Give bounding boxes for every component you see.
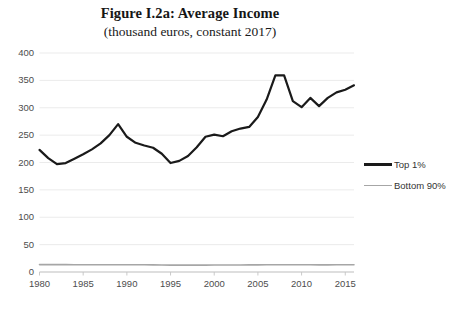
legend-item-top-1-percent[interactable]: Top 1%	[364, 156, 469, 173]
y-axis-tick-label: 150	[0, 184, 34, 195]
x-axis-tick-label: 1980	[20, 278, 60, 289]
series-lines	[40, 75, 355, 265]
x-axis-tick-label: 2015	[325, 278, 365, 289]
x-axis-tick-label: 2000	[194, 278, 234, 289]
figure-container: Figure I.2a: Average Income (thousand eu…	[0, 0, 469, 310]
legend-line-swatch	[364, 185, 392, 187]
line-chart-plot	[0, 0, 469, 310]
legend-line-swatch	[364, 163, 392, 165]
y-axis-tick-label: 300	[0, 102, 34, 113]
x-axis-tick-label: 1995	[151, 278, 191, 289]
x-axis-tick-label: 1985	[63, 278, 103, 289]
x-axis-tick-label: 2005	[238, 278, 278, 289]
series-line-bottom-90-percent	[40, 265, 355, 266]
y-axis-tick-label: 50	[0, 239, 34, 250]
y-axis-tick-label: 0	[0, 266, 34, 277]
y-axis-tick-label: 200	[0, 157, 34, 168]
legend-item-bottom-90-percent[interactable]: Bottom 90%	[364, 177, 469, 194]
legend-label: Bottom 90%	[392, 180, 446, 191]
chart-legend: Top 1%Bottom 90%	[364, 156, 469, 198]
y-axis-tick-label: 400	[0, 47, 34, 58]
legend-label: Top 1%	[392, 159, 426, 170]
y-axis-tick-label: 100	[0, 211, 34, 222]
y-axis-tick-label: 250	[0, 129, 34, 140]
x-axis-tick-label: 2010	[282, 278, 322, 289]
series-line-top-1-percent	[40, 75, 355, 164]
gridlines	[40, 53, 355, 276]
x-axis-tick-label: 1990	[107, 278, 147, 289]
y-axis-tick-label: 350	[0, 74, 34, 85]
